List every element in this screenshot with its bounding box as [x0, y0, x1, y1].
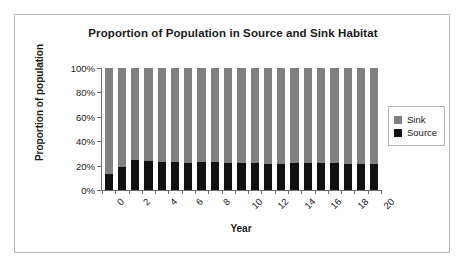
x-axis-tick-label: 18	[355, 196, 370, 211]
stacked-bar[interactable]	[184, 68, 192, 190]
bar-segment-source[interactable]	[251, 163, 259, 190]
bar-segment-source[interactable]	[224, 163, 232, 190]
bar-slot	[315, 68, 328, 190]
bar-segment-source[interactable]	[105, 174, 113, 190]
x-axis-tick	[288, 190, 289, 194]
chart-title: Proportion of Population in Source and S…	[15, 27, 451, 39]
bar-segment-sink[interactable]	[118, 68, 126, 167]
bar-segment-sink[interactable]	[277, 68, 285, 164]
stacked-bar[interactable]	[211, 68, 219, 190]
chart-legend: SinkSource	[388, 106, 445, 146]
bar-segment-source[interactable]	[344, 164, 352, 190]
x-axis-tick	[235, 190, 236, 194]
x-axis-tick	[182, 190, 183, 194]
bar-segment-sink[interactable]	[105, 68, 113, 174]
stacked-bar[interactable]	[237, 68, 245, 190]
bar-segment-sink[interactable]	[357, 68, 365, 164]
bar-segment-sink[interactable]	[317, 68, 325, 163]
bar-segment-sink[interactable]	[237, 68, 245, 163]
x-axis-tick-label: 16	[328, 196, 343, 211]
bar-segment-source[interactable]	[357, 164, 365, 190]
x-axis-tick	[102, 190, 103, 194]
x-axis-tick	[208, 190, 209, 194]
bar-segment-source[interactable]	[118, 167, 126, 190]
stacked-bar[interactable]	[304, 68, 312, 190]
stacked-bar[interactable]	[344, 68, 352, 190]
stacked-bar[interactable]	[144, 68, 152, 190]
bar-segment-sink[interactable]	[144, 68, 152, 161]
bar-segment-sink[interactable]	[290, 68, 298, 163]
legend-label: Sink	[407, 114, 425, 125]
bar-slot	[275, 68, 288, 190]
stacked-bar[interactable]	[131, 68, 139, 190]
stacked-bar[interactable]	[118, 68, 126, 190]
bar-segment-sink[interactable]	[211, 68, 219, 162]
bar-segment-source[interactable]	[211, 162, 219, 190]
legend-swatch-icon	[394, 116, 402, 124]
bar-segment-source[interactable]	[264, 164, 272, 190]
stacked-bar[interactable]	[317, 68, 325, 190]
bar-slot	[155, 68, 168, 190]
bar-segment-source[interactable]	[237, 163, 245, 190]
stacked-bar[interactable]	[264, 68, 272, 190]
bar-segment-sink[interactable]	[184, 68, 192, 163]
bar-slot	[288, 68, 301, 190]
stacked-bar[interactable]	[277, 68, 285, 190]
legend-entry[interactable]: Source	[394, 127, 437, 138]
stacked-bar[interactable]	[158, 68, 166, 190]
bar-segment-sink[interactable]	[251, 68, 259, 163]
y-axis-tick-label: 60%	[76, 111, 95, 122]
bar-segment-source[interactable]	[197, 162, 205, 190]
stacked-bar[interactable]	[290, 68, 298, 190]
stacked-bar[interactable]	[330, 68, 338, 190]
bar-segment-source[interactable]	[131, 160, 139, 191]
stacked-bar[interactable]	[197, 68, 205, 190]
bar-segment-sink[interactable]	[158, 68, 166, 162]
bar-segment-source[interactable]	[330, 163, 338, 190]
bar-slot	[235, 68, 248, 190]
bar-segment-sink[interactable]	[304, 68, 312, 163]
stacked-bar[interactable]	[357, 68, 365, 190]
stacked-bar[interactable]	[171, 68, 179, 190]
y-axis-tick-label: 20%	[76, 160, 95, 171]
y-axis-tick-label: 40%	[76, 136, 95, 147]
legend-label: Source	[407, 127, 437, 138]
stacked-bar[interactable]	[105, 68, 113, 190]
bar-segment-source[interactable]	[277, 164, 285, 190]
bar-segment-source[interactable]	[171, 162, 179, 190]
bar-segment-source[interactable]	[304, 163, 312, 190]
stacked-bar[interactable]	[251, 68, 259, 190]
x-axis-tick	[328, 190, 329, 194]
bar-segment-sink[interactable]	[131, 68, 139, 160]
x-axis-tick-label: 6	[194, 196, 206, 208]
y-axis-tick	[97, 166, 101, 167]
stacked-bar[interactable]	[224, 68, 232, 190]
bar-segment-sink[interactable]	[370, 68, 378, 164]
plot-area: 0%20%40%60%80%100% 02468101214161820	[101, 68, 381, 190]
legend-swatch-icon	[394, 129, 402, 137]
x-axis-tick	[261, 190, 262, 194]
stacked-bar[interactable]	[370, 68, 378, 190]
bar-segment-sink[interactable]	[224, 68, 232, 163]
x-axis-tick	[222, 190, 223, 194]
bar-slot	[222, 68, 235, 190]
bar-segment-source[interactable]	[370, 164, 378, 190]
bar-segment-source[interactable]	[184, 163, 192, 190]
bar-segment-source[interactable]	[144, 161, 152, 190]
bar-segment-sink[interactable]	[197, 68, 205, 162]
bar-segment-sink[interactable]	[330, 68, 338, 163]
chart-frame: Proportion of Population in Source and S…	[14, 14, 450, 253]
x-axis-tick	[301, 190, 302, 194]
bar-segment-sink[interactable]	[171, 68, 179, 162]
bar-slot	[195, 68, 208, 190]
bar-segment-source[interactable]	[317, 163, 325, 190]
x-axis-tick	[381, 190, 382, 194]
bar-segment-source[interactable]	[290, 163, 298, 190]
y-axis-tick-label: 80%	[76, 87, 95, 98]
bar-segment-sink[interactable]	[344, 68, 352, 164]
y-axis-tick-label: 100%	[71, 63, 95, 74]
bar-segment-source[interactable]	[158, 162, 166, 190]
bar-segment-sink[interactable]	[264, 68, 272, 164]
bar-slot	[368, 68, 381, 190]
legend-entry[interactable]: Sink	[394, 114, 437, 125]
